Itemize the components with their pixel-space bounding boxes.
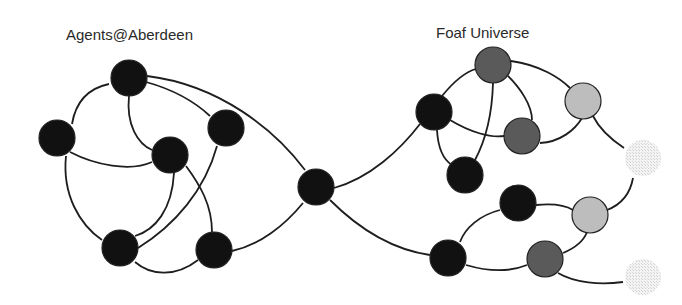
node-f3 <box>504 118 540 154</box>
node-f5 <box>447 157 483 193</box>
network-diagram <box>0 0 682 305</box>
node-f6 <box>500 185 536 221</box>
edge <box>146 82 210 116</box>
edge <box>72 84 109 124</box>
node-f9 <box>527 241 563 277</box>
edge <box>540 118 582 143</box>
node-f8 <box>430 240 466 276</box>
edge <box>607 178 633 210</box>
nodes <box>39 47 661 295</box>
edge <box>330 200 430 255</box>
edge <box>450 120 504 136</box>
edge <box>70 152 152 167</box>
node-a3 <box>152 137 188 173</box>
edge <box>129 96 152 150</box>
node-a1 <box>111 60 147 96</box>
node-f7 <box>572 197 608 233</box>
node-f2 <box>416 94 452 130</box>
edge <box>232 203 303 251</box>
edge <box>508 76 532 120</box>
node-f4 <box>565 83 601 119</box>
edge <box>135 173 174 236</box>
edge <box>186 166 212 232</box>
edge <box>475 83 493 160</box>
edge <box>334 124 420 188</box>
node-f1 <box>475 47 511 83</box>
node-a6 <box>196 232 232 268</box>
edge <box>442 69 476 96</box>
node-f11 <box>625 259 661 295</box>
node-f10 <box>625 140 661 176</box>
edge <box>460 210 500 242</box>
edge <box>437 130 452 165</box>
edge <box>536 204 573 210</box>
edge <box>65 156 102 240</box>
edge <box>558 273 623 283</box>
edge <box>511 61 570 88</box>
edge <box>563 232 587 253</box>
node-a5 <box>102 230 138 266</box>
edge <box>135 260 198 273</box>
node-hub <box>298 169 334 205</box>
node-a4 <box>208 110 244 146</box>
edge <box>466 265 527 270</box>
edge <box>593 116 624 148</box>
node-a2 <box>39 120 75 156</box>
